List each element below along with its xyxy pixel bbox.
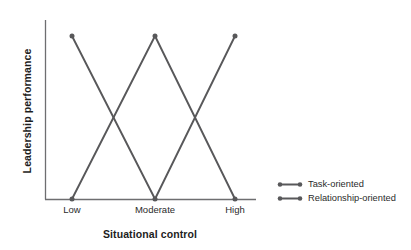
- x-tick-label-moderate: Moderate: [135, 204, 175, 215]
- chart-legend: Task-oriented Relationship-oriented: [277, 178, 409, 206]
- series-task-oriented: [70, 34, 238, 202]
- legend-item-task-oriented: Task-oriented: [277, 178, 409, 191]
- legend-label-relationship-oriented: Relationship-oriented: [308, 193, 396, 204]
- legend-line-marker-icon: [277, 180, 303, 189]
- legend-line-marker-icon: [277, 194, 303, 203]
- x-tick-label-low: Low: [63, 204, 80, 215]
- x-tick-label-high: High: [225, 204, 245, 215]
- x-axis-title: Situational control: [45, 228, 255, 240]
- series-relationship-oriented: [70, 34, 238, 202]
- legend-item-relationship-oriented: Relationship-oriented: [277, 192, 409, 205]
- plot-area: [0, 0, 411, 250]
- legend-label-task-oriented: Task-oriented: [308, 179, 364, 190]
- chart-figure: Leadership performance Low Moderate High…: [0, 0, 411, 250]
